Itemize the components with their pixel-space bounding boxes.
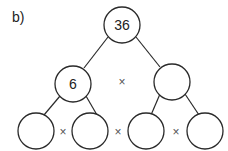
- edge-midright-leaf4: [185, 94, 199, 115]
- node-leaf-1[interactable]: [18, 113, 54, 149]
- node-mid-right[interactable]: [154, 64, 190, 100]
- node-leaf-4[interactable]: [187, 113, 223, 149]
- times-operator-leaf-3-4: ×: [172, 125, 179, 139]
- edge-root-midright: [136, 37, 160, 67]
- times-operator-mid: ×: [118, 75, 125, 89]
- factor-tree-diagram: b) 36 6 × × × ×: [0, 0, 228, 151]
- question-label: b): [12, 9, 24, 25]
- node-mid-left-value: 6: [69, 76, 77, 92]
- edge-midright-leaf3: [151, 94, 160, 115]
- edge-midleft-leaf2: [86, 96, 97, 115]
- edge-midleft-leaf1: [44, 96, 60, 115]
- times-operator-leaf-2-3: ×: [114, 125, 121, 139]
- node-leaf-2[interactable]: [72, 113, 108, 149]
- node-leaf-3[interactable]: [128, 113, 164, 149]
- times-operator-leaf-1-2: ×: [59, 125, 66, 139]
- edge-root-midleft: [84, 37, 108, 68]
- node-root-value: 36: [114, 17, 130, 33]
